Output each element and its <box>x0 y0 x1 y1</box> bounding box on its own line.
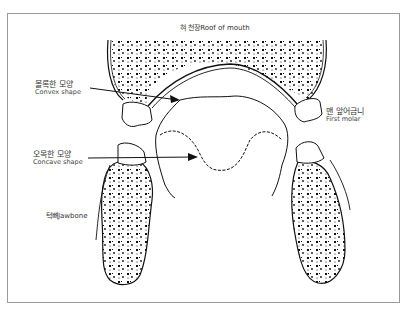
tongue-concave-outline <box>160 131 282 170</box>
label-convex-en: Convex shape <box>35 89 81 96</box>
roof-bone <box>108 40 327 108</box>
lower-left-jawbone <box>96 143 153 285</box>
label-concave-shape: 오목한 모양 Concave shape <box>33 150 83 167</box>
label-jawbone: 턱뼈Jawbone <box>46 212 88 220</box>
upper-left-molar <box>122 102 152 126</box>
label-first-molar: 맨 앞어금니 First molar <box>326 107 364 124</box>
lower-right-jawbone <box>292 142 350 284</box>
label-roof-of-mouth: 혀 천장Roof of mouth <box>180 24 250 32</box>
label-convex-shape: 볼록한 모양 Convex shape <box>35 80 81 97</box>
upper-right-molar <box>295 99 322 122</box>
tongue-convex-outline <box>156 96 288 198</box>
label-first-molar-en: First molar <box>326 116 364 123</box>
label-concave-en: Concave shape <box>33 159 83 166</box>
